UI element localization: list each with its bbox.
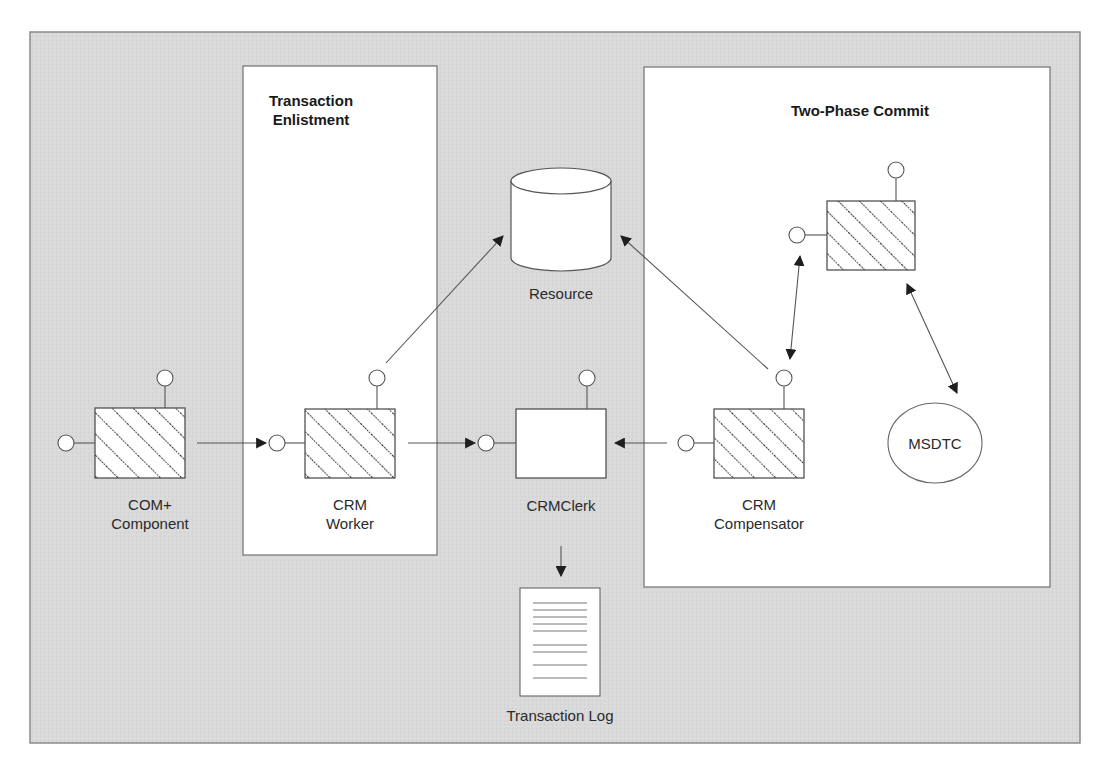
transaction-log-label: Transaction Log: [490, 706, 630, 725]
crm-compensator-label: CRM Compensator: [694, 495, 824, 533]
crm-worker-label: CRM Worker: [300, 495, 400, 533]
crm-clerk-label: CRMClerk: [506, 496, 616, 515]
msdtc-label: MSDTC: [895, 434, 975, 453]
transaction-log-document-icon: [520, 588, 600, 696]
resource-database-icon: [511, 168, 611, 271]
resource-label: Resource: [511, 284, 611, 303]
transaction-enlistment-title: Transaction Enlistment: [253, 91, 369, 129]
crm-architecture-diagram: Transaction Enlistment Two-Phase Commit …: [0, 0, 1109, 766]
two-phase-commit-title: Two-Phase Commit: [760, 101, 960, 120]
com-plus-component-label: COM+ Component: [90, 495, 210, 533]
transaction-enlistment-region: [243, 66, 437, 555]
